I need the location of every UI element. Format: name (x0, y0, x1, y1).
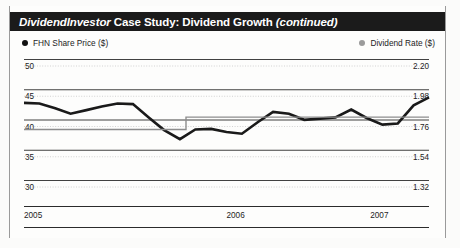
chart-x-axis: 200520062007 (10, 206, 445, 236)
legend-item-share-price: FHN Share Price ($) (22, 38, 108, 48)
x-axis-rule-top (24, 206, 429, 207)
x-axis-tick-label: 2006 (227, 211, 245, 220)
legend-label-share-price: FHN Share Price ($) (33, 38, 108, 48)
y2-axis-tick-label: 1.76 (413, 123, 429, 132)
chart-series-line (24, 97, 429, 139)
figure-root: DividendInvestor Case Study: Dividend Gr… (0, 0, 460, 248)
chart-canvas: 50454035302.201.981.761.541.32 (10, 56, 445, 206)
chart-legend: FHN Share Price ($) Dividend Rate ($) (10, 36, 445, 54)
page-title: Case Study: Dividend Growth (111, 16, 276, 28)
y2-axis-tick-label: 2.20 (413, 62, 429, 71)
x-axis-rule-bottom (24, 227, 429, 228)
legend-label-dividend-rate: Dividend Rate ($) (370, 38, 435, 48)
y-axis-tick-label: 50 (25, 62, 35, 71)
x-axis-tick-label: 2005 (24, 211, 42, 220)
figure-title-bar: DividendInvestor Case Study: Dividend Gr… (10, 12, 445, 31)
y2-axis-tick-label: 1.32 (413, 183, 429, 192)
chart-plot-area: 50454035302.201.981.761.541.32 (10, 56, 445, 206)
legend-marker-circle-icon (22, 40, 28, 46)
y-axis-tick-label: 35 (25, 153, 35, 162)
brand-name: DividendInvestor (19, 16, 111, 28)
y-axis-tick-label: 30 (25, 183, 35, 192)
x-axis-tick-label: 2007 (370, 211, 388, 220)
y2-axis-tick-label: 1.54 (413, 153, 429, 162)
legend-item-dividend-rate: Dividend Rate ($) (359, 38, 435, 48)
continued-label: (continued) (276, 16, 338, 28)
legend-marker-circle-icon (359, 40, 365, 46)
y-axis-tick-label: 45 (25, 92, 35, 101)
